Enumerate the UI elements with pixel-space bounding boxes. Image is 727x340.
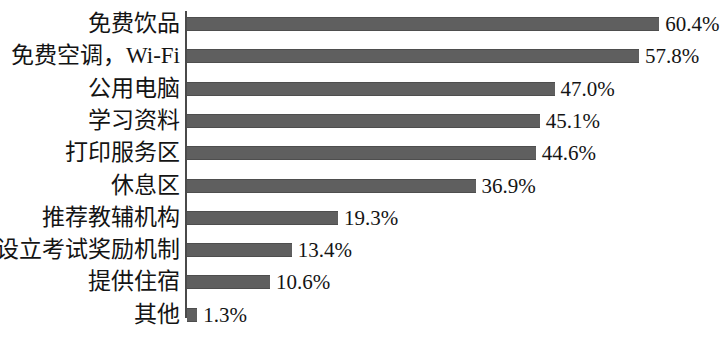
bar-value-label: 60.4% (665, 8, 719, 40)
bar-row: 推荐教辅机构19.3% (0, 202, 727, 234)
bar-value-label: 44.6% (542, 137, 596, 169)
bar-value-label: 45.1% (546, 105, 600, 137)
category-label: 学习资料 (88, 105, 180, 137)
plot-area: 免费饮品60.4%免费空调，Wi-Fi57.8%公用电脑47.0%学习资料45.… (0, 0, 727, 340)
category-label: 免费空调，Wi-Fi (11, 40, 180, 72)
bar-value-label: 1.3% (203, 299, 247, 331)
bar (187, 49, 639, 63)
bar-row: 免费空调，Wi-Fi57.8% (0, 40, 727, 72)
category-label: 休息区 (111, 170, 180, 202)
bar (187, 114, 540, 128)
bar (187, 275, 270, 289)
bar-row: 免费饮品60.4% (0, 8, 727, 40)
bar-value-label: 19.3% (344, 202, 398, 234)
bar-row: 设立考试奖励机制13.4% (0, 234, 727, 266)
category-label: 打印服务区 (65, 137, 180, 169)
category-label: 其他 (134, 299, 180, 331)
category-label: 推荐教辅机构 (42, 202, 180, 234)
bar-value-label: 47.0% (561, 73, 615, 105)
category-label: 公用电脑 (88, 73, 180, 105)
category-label: 提供住宿 (88, 266, 180, 298)
bar (187, 243, 292, 257)
bar-value-label: 13.4% (298, 234, 352, 266)
bar-row: 其他1.3% (0, 299, 727, 331)
bar-row: 提供住宿10.6% (0, 266, 727, 298)
horizontal-bar-chart: 免费饮品60.4%免费空调，Wi-Fi57.8%公用电脑47.0%学习资料45.… (0, 0, 727, 340)
bar-value-label: 10.6% (276, 266, 330, 298)
bar (187, 146, 536, 160)
bar (187, 17, 659, 31)
bar-value-label: 57.8% (645, 40, 699, 72)
bar-value-label: 36.9% (482, 170, 536, 202)
bar (187, 308, 197, 322)
bar-row: 打印服务区44.6% (0, 137, 727, 169)
bar (187, 211, 338, 225)
category-label: 免费饮品 (88, 8, 180, 40)
bar (187, 179, 476, 193)
category-label: 设立考试奖励机制 (0, 234, 180, 266)
bar-row: 公用电脑47.0% (0, 73, 727, 105)
bar-row: 学习资料45.1% (0, 105, 727, 137)
bar-row: 休息区36.9% (0, 170, 727, 202)
bar (187, 82, 555, 96)
